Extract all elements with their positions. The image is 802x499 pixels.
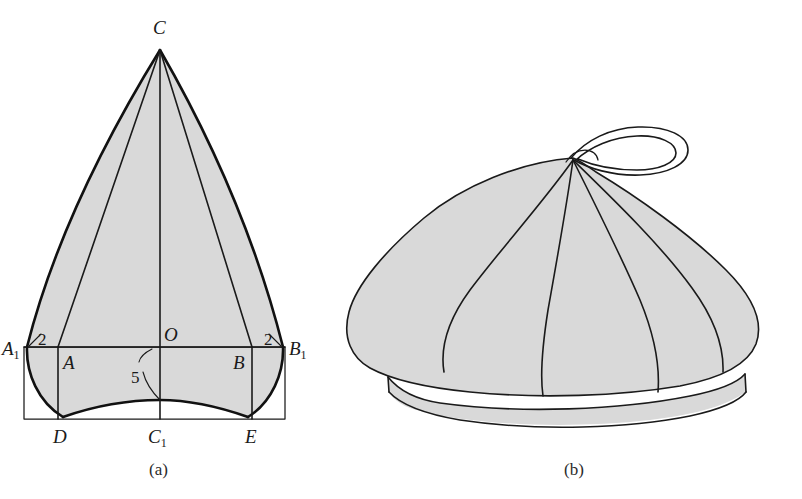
cap-crown-fill	[347, 158, 759, 396]
dimension-right-gap: 2	[264, 330, 273, 349]
figure-a-group: C A1 B1 A B O D C1 E 2 2 5 (a)	[0, 17, 307, 479]
label-point-a: A	[61, 352, 75, 373]
label-point-c1-letter: C	[148, 426, 161, 447]
label-point-e: E	[244, 426, 257, 447]
label-point-c: C	[153, 17, 166, 38]
label-point-b1-letter: B	[289, 338, 301, 359]
label-point-d: D	[52, 426, 67, 447]
label-point-a1: A1	[0, 338, 20, 362]
label-point-a1-sub: 1	[14, 348, 20, 362]
label-point-o: O	[164, 324, 178, 345]
caption-figure-a: (a)	[149, 460, 168, 479]
cap-brim-right-edge	[745, 374, 746, 392]
dimension-rise: 5	[131, 368, 140, 387]
figure-canvas: C A1 B1 A B O D C1 E 2 2 5 (a)	[0, 0, 802, 499]
label-point-c1-sub: 1	[161, 436, 167, 450]
dimension-left-gap: 2	[38, 330, 47, 349]
cap-brim-left-edge	[388, 377, 389, 392]
figure-b-group: (b)	[347, 127, 759, 479]
label-point-c1: C1	[148, 426, 167, 450]
label-point-b1-sub: 1	[301, 348, 307, 362]
figure-root: C A1 B1 A B O D C1 E 2 2 5 (a)	[0, 0, 802, 499]
label-point-a1-letter: A	[0, 338, 14, 359]
label-point-b1: B1	[289, 338, 307, 362]
caption-figure-b: (b)	[564, 460, 584, 479]
label-point-b: B	[233, 352, 245, 373]
